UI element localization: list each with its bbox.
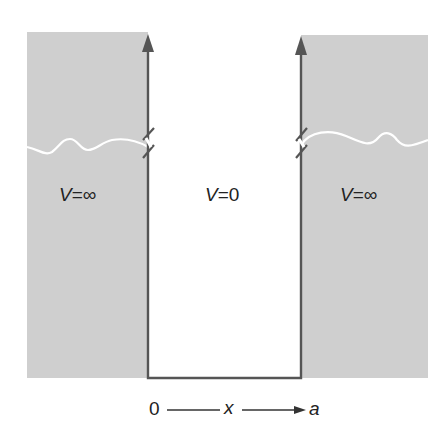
left-region-label: V=∞ (59, 184, 96, 206)
axis-end-label: a (309, 398, 320, 420)
potential-symbol: V (205, 184, 218, 205)
axis-variable-label: x (224, 397, 234, 419)
potential-symbol: V (59, 184, 72, 205)
potential-well-diagram (0, 0, 444, 427)
axis-arrow-icon (294, 406, 306, 414)
right-infinite-region (301, 35, 428, 378)
equals-sign: = (72, 184, 83, 205)
equals-sign: = (353, 184, 364, 205)
axis-start-label: 0 (149, 398, 160, 420)
right-region-label: V=∞ (340, 184, 377, 206)
inside-region-label: V=0 (205, 184, 239, 206)
potential-value: ∞ (83, 184, 97, 205)
potential-value: ∞ (364, 184, 378, 205)
equals-sign: = (218, 184, 229, 205)
potential-value: 0 (229, 184, 240, 205)
well-walls (148, 50, 301, 378)
potential-symbol: V (340, 184, 353, 205)
